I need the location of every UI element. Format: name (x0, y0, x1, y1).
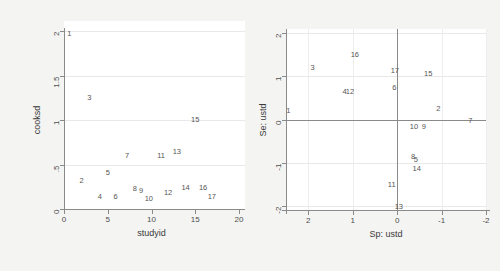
data-point-label: 5 (106, 169, 110, 177)
x-tick-label: 2 (296, 216, 320, 225)
x-tick-label: 0 (385, 216, 409, 225)
x-tick-mark (239, 210, 240, 214)
data-point-label: 14 (412, 165, 420, 173)
y-axis-line-right (286, 29, 287, 214)
x-tick-mark (308, 211, 309, 215)
y-axis-title-right: Se: ustd (258, 85, 268, 155)
y-tick-label: 1 (52, 121, 61, 139)
x-tick-label: 15 (183, 215, 207, 224)
y-tick-mark (60, 120, 64, 121)
gridline-vertical (486, 29, 487, 210)
x-tick-mark (195, 210, 196, 214)
figure-container: 0.511.52 05101520 cooksd studyid 1234567… (0, 0, 500, 271)
x-tick-label: 5 (96, 215, 120, 224)
plot-area-left (64, 21, 245, 209)
data-point-label: 13 (173, 148, 181, 156)
data-point-label: 11 (157, 152, 165, 160)
data-point-label: 15 (191, 116, 199, 124)
data-point-label: 17 (391, 67, 399, 75)
y-tick-label: .5 (52, 165, 61, 183)
data-point-label: 7 (468, 117, 472, 125)
y-tick-mark (282, 163, 286, 164)
data-point-label: 7 (125, 152, 129, 160)
data-point-label: 4 (98, 193, 102, 201)
gridline-horizontal (286, 206, 486, 207)
y-tick-label: -2 (274, 206, 283, 224)
x-tick-label: 1 (341, 216, 365, 225)
y-tick-mark (60, 76, 64, 77)
x-tick-label: 20 (227, 215, 251, 224)
gridline-horizontal (64, 76, 245, 77)
x-tick-label: -1 (430, 216, 454, 225)
x-tick-label: 10 (140, 215, 164, 224)
y-tick-label: 2 (274, 34, 283, 52)
data-point-label: 12 (164, 189, 172, 197)
data-point-label: 14 (181, 184, 189, 192)
x-tick-mark (397, 211, 398, 215)
y-axis-line-left (64, 28, 65, 212)
gridline-horizontal (64, 31, 245, 32)
y-tick-label: -1 (274, 163, 283, 181)
x-tick-mark (353, 211, 354, 215)
data-point-label: 3 (87, 94, 91, 102)
x-tick-label: 0 (52, 215, 76, 224)
y-tick-label: 2 (52, 32, 61, 50)
data-point-label: 1 (67, 30, 71, 38)
x-axis-line-right (282, 210, 490, 211)
data-point-label: 8 (133, 185, 137, 193)
y-tick-mark (282, 120, 286, 121)
x-tick-mark (152, 210, 153, 214)
y-tick-mark (60, 31, 64, 32)
y-tick-mark (282, 76, 286, 77)
x-tick-mark (486, 211, 487, 215)
data-point-label: 9 (139, 187, 143, 195)
data-point-label: 8 (411, 153, 415, 161)
data-point-label: 2 (436, 105, 440, 113)
data-point-label: 9 (422, 123, 426, 131)
y-tick-label: 1 (274, 77, 283, 95)
gridline-horizontal (64, 165, 245, 166)
data-point-label: 12 (346, 88, 354, 96)
data-point-label: 6 (392, 84, 396, 92)
y-tick-label: 1.5 (52, 76, 61, 94)
data-point-label: 16 (199, 184, 207, 192)
y-tick-mark (60, 165, 64, 166)
x-tick-mark (108, 210, 109, 214)
y-tick-label: 0 (274, 120, 283, 138)
data-point-label: 15 (424, 70, 432, 78)
x-axis-title-right: Sp: ustd (346, 229, 426, 239)
y-tick-mark (282, 33, 286, 34)
data-point-label: 10 (145, 195, 153, 203)
zero-line-horizontal (286, 120, 486, 121)
y-axis-title-left: cooksd (32, 85, 42, 155)
x-tick-mark (442, 211, 443, 215)
data-point-label: 2 (79, 177, 83, 185)
data-point-label: 3 (311, 64, 315, 72)
gridline-horizontal (64, 120, 245, 121)
scatter-plot-se-sp: 210-1-2 210-1-2 Se: ustd Sp: ustd 123456… (250, 0, 500, 271)
gridline-horizontal (286, 33, 486, 34)
data-point-label: 16 (351, 51, 359, 59)
x-axis-line-left (61, 209, 245, 210)
data-point-label: 17 (208, 193, 216, 201)
data-point-label: 10 (410, 123, 418, 131)
gridline-horizontal (286, 76, 486, 77)
scatter-plot-cooksd: 0.511.52 05101520 cooksd studyid 1234567… (0, 0, 250, 271)
x-tick-mark (64, 210, 65, 214)
x-axis-title-left: studyid (112, 228, 192, 238)
data-point-label: 11 (388, 181, 396, 189)
data-point-label: 6 (114, 193, 118, 201)
x-tick-label: -2 (474, 216, 498, 225)
data-point-label: 1 (286, 107, 290, 115)
gridline-horizontal (286, 163, 486, 164)
y-tick-mark (282, 206, 286, 207)
data-point-label: 13 (395, 203, 403, 211)
